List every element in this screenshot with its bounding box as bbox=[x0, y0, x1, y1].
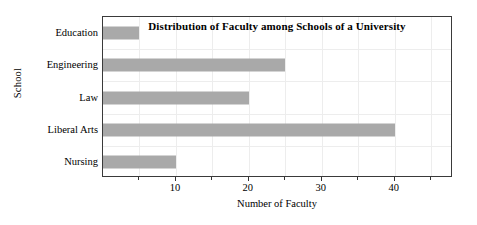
x-tick-label: 30 bbox=[316, 182, 327, 193]
x-tick-mark bbox=[321, 177, 322, 181]
gridline-vertical bbox=[358, 17, 359, 176]
x-tick-mark bbox=[175, 177, 176, 181]
x-tick-mark-minor bbox=[357, 177, 358, 180]
x-tick-mark-minor bbox=[284, 177, 285, 180]
gridline-vertical bbox=[285, 17, 286, 176]
x-tick-label: 40 bbox=[388, 182, 399, 193]
bar bbox=[103, 59, 285, 72]
chart-title: Distribution of Faculty among Schools of… bbox=[102, 20, 452, 32]
x-tick-mark bbox=[394, 177, 395, 181]
x-tick-label: 10 bbox=[170, 182, 181, 193]
plot-area bbox=[102, 16, 452, 177]
y-axis-tick-labels: EducationEngineeringLawLiberal ArtsNursi… bbox=[18, 16, 98, 177]
gridline-horizontal bbox=[103, 81, 451, 82]
chart-figure: School EducationEngineeringLawLiberal Ar… bbox=[0, 0, 477, 225]
y-tick-label: Liberal Arts bbox=[18, 123, 98, 134]
x-tick-mark-minor bbox=[138, 177, 139, 180]
x-axis-title: Number of Faculty bbox=[102, 198, 452, 209]
x-tick-mark-minor bbox=[211, 177, 212, 180]
bar bbox=[103, 155, 176, 168]
y-tick-label: Nursing bbox=[18, 155, 98, 166]
gridline-horizontal bbox=[103, 49, 451, 50]
gridline-vertical bbox=[249, 17, 250, 176]
gridline-vertical bbox=[322, 17, 323, 176]
x-tick-label: 20 bbox=[243, 182, 254, 193]
x-tick-mark bbox=[248, 177, 249, 181]
gridline-horizontal bbox=[103, 114, 451, 115]
y-tick-label: Education bbox=[18, 27, 98, 38]
plot-inner bbox=[103, 17, 451, 176]
bar bbox=[103, 91, 249, 104]
bar bbox=[103, 123, 395, 136]
y-tick-label: Engineering bbox=[18, 59, 98, 70]
gridline-horizontal bbox=[103, 146, 451, 147]
gridline-vertical bbox=[431, 17, 432, 176]
x-tick-mark-minor bbox=[430, 177, 431, 180]
y-tick-label: Law bbox=[18, 91, 98, 102]
gridline-vertical bbox=[395, 17, 396, 176]
